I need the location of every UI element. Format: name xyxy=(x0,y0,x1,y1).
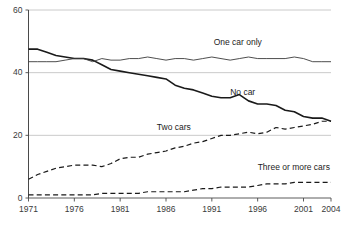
series-label-three-or-more-cars: Three or more cars xyxy=(258,163,330,172)
x-tick-label-1991: 1991 xyxy=(195,205,229,214)
x-tick-label-1976: 1976 xyxy=(57,205,91,214)
x-tick-label-1996: 1996 xyxy=(241,205,275,214)
series-label-two-cars: Two cars xyxy=(157,123,191,132)
x-tick-label-2004: 2004 xyxy=(314,205,345,214)
series-label-one-car-only: One car only xyxy=(214,38,262,47)
axis-ticks xyxy=(26,10,332,202)
y-tick-label-20: 20 xyxy=(0,131,23,140)
x-tick-label-1981: 1981 xyxy=(103,205,137,214)
y-tick-label-60: 60 xyxy=(0,6,23,15)
series-line-no-car xyxy=(29,49,332,121)
x-tick-label-1986: 1986 xyxy=(149,205,183,214)
x-tick-label-1971: 1971 xyxy=(12,205,46,214)
y-tick-label-0: 0 xyxy=(0,194,23,203)
series-label-no-car: No car xyxy=(230,88,255,97)
y-tick-label-40: 40 xyxy=(0,68,23,77)
series-line-three-or-more-cars xyxy=(29,182,332,195)
